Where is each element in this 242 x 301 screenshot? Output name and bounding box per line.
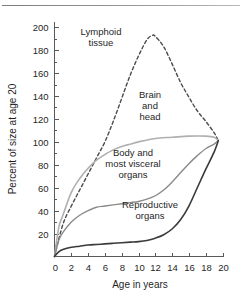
y-tick-label: 120 <box>33 114 49 125</box>
growth-curve-figure: 20406080100120140160180200 0246810121416… <box>0 0 242 301</box>
y-tick-label: 140 <box>33 91 49 102</box>
annotation-reproductive-organs: Reproductiveorgans <box>122 199 178 221</box>
y-axis-ticks <box>55 28 59 246</box>
x-tick-label: 18 <box>201 262 212 273</box>
y-tick-label: 160 <box>33 68 49 79</box>
y-axis-title: Percent of size at age 20 <box>7 83 18 194</box>
y-tick-label: 200 <box>33 22 49 33</box>
x-tick-label: 0 <box>53 262 58 273</box>
x-axis-tick-labels: 02468101214161820 <box>53 262 229 273</box>
y-tick-label: 100 <box>33 137 49 148</box>
x-tick-label: 12 <box>150 262 161 273</box>
x-tick-label: 16 <box>184 262 195 273</box>
y-tick-label: 60 <box>38 183 49 194</box>
x-tick-label: 20 <box>218 262 229 273</box>
x-tick-label: 8 <box>120 262 125 273</box>
y-tick-label: 80 <box>38 160 49 171</box>
y-axis-tick-labels: 20406080100120140160180200 <box>33 22 49 240</box>
scammon-growth-chart: 20406080100120140160180200 0246810121416… <box>0 0 242 301</box>
y-tick-label: 20 <box>38 229 49 240</box>
x-tick-label: 10 <box>134 262 145 273</box>
x-tick-label: 2 <box>69 262 74 273</box>
curve-lymphoid-tissue <box>55 35 219 257</box>
chart-series-group <box>55 35 219 257</box>
annotation-body-and-visceral-organs: Body andmost visceralorgans <box>105 147 160 180</box>
x-axis-title: Age in years <box>112 279 168 290</box>
y-tick-label: 180 <box>33 45 49 56</box>
annotation-lymphoid-tissue: Lymphoidtissue <box>81 26 122 48</box>
y-tick-label: 40 <box>38 206 49 217</box>
x-tick-label: 14 <box>167 262 178 273</box>
x-tick-label: 6 <box>103 262 108 273</box>
x-axis-ticks <box>56 253 224 257</box>
x-tick-label: 4 <box>86 262 91 273</box>
annotation-brain-and-head: Brainandhead <box>139 89 161 122</box>
series-annotations-group: LymphoidtissueBrainandheadBody andmost v… <box>81 26 178 221</box>
